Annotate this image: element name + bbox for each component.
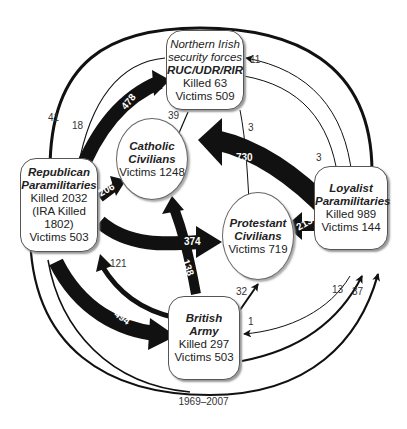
label-32: 32 [236,286,247,297]
label-3-loy: 3 [316,152,322,163]
label-18: 18 [72,120,83,131]
army-name1: British [169,312,239,325]
loyalist-killed: Killed 989 [315,208,387,221]
republican-victims: Victims 503 [21,231,97,244]
protestant-victims: Victims 719 [223,243,293,256]
catholic-victims: Victims 1248 [117,166,187,179]
label-41: 41 [48,112,59,123]
catholic-name1: Catholic [117,140,187,153]
catholic-name2: Civilians [117,153,187,166]
node-protestant-civilians: Protestant Civilians Victims 719 [222,192,294,280]
edge-army-cath-138 [174,208,196,294]
label-374: 374 [184,236,201,247]
label-730: 730 [236,152,253,163]
security-killed: Killed 63 [167,77,243,90]
loyalist-name2: Paramilitaries [315,195,387,208]
date-range-caption: 1969–2007 [0,396,407,407]
protestant-name1: Protestant [223,217,293,230]
label-13: 13 [332,284,343,295]
loyalist-victims: Victims 144 [315,221,387,234]
loyalist-name1: Loyalist [315,182,387,195]
node-british-army: British Army Killed 297 Victims 503 [168,296,240,380]
label-37: 37 [352,286,363,297]
node-loyalist-paramilitaries: Loyalist Paramilitaries Killed 989 Victi… [314,166,388,250]
node-security-forces: Northern Irish security forces RUC/UDR/R… [166,30,244,110]
army-victims: Victims 503 [169,351,239,364]
security-name: RUC/UDR/RIR [167,64,243,77]
edge-army-rep-121 [102,266,176,318]
republican-name1: Republican [21,166,97,179]
protestant-name2: Civilians [223,230,293,243]
security-victims: Victims 509 [167,90,243,103]
node-catholic-civilians: Catholic Civilians Victims 1248 [116,118,188,200]
republican-killed: Killed 2032 [21,192,97,205]
republican-ira: (IRA Killed 1802) [21,205,97,231]
security-line2: security forces [167,51,243,64]
label-1: 1 [248,316,254,327]
label-3-prot: 3 [248,122,254,133]
node-republican-paramilitaries: Republican Paramilitaries Killed 2032 (I… [20,158,98,252]
republican-name2: Paramilitaries [21,179,97,192]
label-11: 11 [250,54,260,65]
army-name2: Army [169,325,239,338]
label-121: 121 [110,258,127,269]
security-line1: Northern Irish [167,38,243,51]
label-39: 39 [168,110,179,121]
army-killed: Killed 297 [169,338,239,351]
